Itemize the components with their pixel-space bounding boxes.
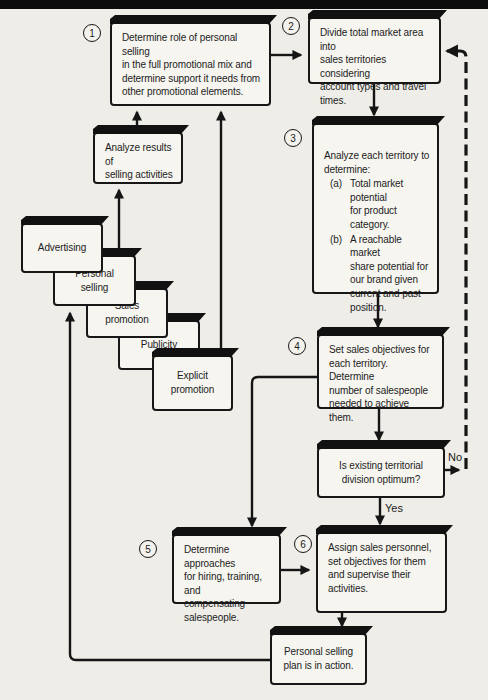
step-5-number-badge: 5 [139, 540, 157, 558]
step-5-number: 5 [145, 544, 151, 555]
arrow-step4-to-step5 [252, 377, 317, 526]
step-3-item-b: (b) A reachable market share potential f… [324, 233, 431, 315]
plan-in-action-text: Personal selling plan is in action. [284, 645, 354, 672]
cascade-advertising-label: Advertising [38, 241, 86, 255]
step-5-text: Determine approaches for hiring, trainin… [184, 543, 271, 625]
step-6-text: Assign sales personnel, set objectives f… [328, 541, 437, 595]
step-3-box: Analyze each territory to determine: (a)… [312, 123, 439, 294]
flowchart-page: 1 2 3 4 5 6 Determine role of personal s… [0, 0, 488, 700]
cascade-explicit-promotion-label: Explicit promotion [171, 369, 215, 396]
step-1-text: Determine role of personal selling in th… [122, 31, 261, 99]
step-2-box: Divide total market area into sales terr… [308, 17, 441, 84]
step-2-text: Divide total market area into sales terr… [320, 26, 431, 108]
decision-territorial-division-box: Is existing territorial division optimum… [317, 447, 445, 498]
analyze-results-text: Analyze results of selling activities [105, 141, 173, 182]
step-3-item-a-label: (a) [330, 177, 350, 231]
step-3-number: 3 [290, 133, 296, 144]
step-2-number-badge: 2 [282, 17, 300, 35]
step-6-box: Assign sales personnel, set objectives f… [316, 532, 447, 613]
step-3-item-b-text: A reachable market share potential for o… [350, 233, 431, 315]
step-6-number-badge: 6 [294, 535, 312, 553]
step-1-number-badge: 1 [83, 24, 101, 42]
dashed-no-loop-to-step2 [447, 51, 466, 469]
plan-in-action-box: Personal selling plan is in action. [270, 633, 367, 685]
step-1-box: Determine role of personal selling in th… [110, 22, 271, 106]
step-4-text: Set sales objectives for each territory.… [329, 343, 434, 425]
step-3-intro: Analyze each territory to determine: [324, 149, 431, 176]
decision-text: Is existing territorial division optimum… [339, 459, 423, 486]
decision-no-label: No [448, 451, 462, 463]
decision-yes-label: Yes [385, 502, 403, 514]
step-2-number: 2 [288, 21, 294, 32]
step-1-number: 1 [89, 28, 95, 39]
step-3-number-badge: 3 [284, 129, 302, 147]
step-3-item-b-label: (b) [330, 233, 350, 315]
step-4-number: 4 [294, 341, 300, 352]
cascade-advertising-box: Advertising [21, 223, 103, 273]
step-4-number-badge: 4 [288, 337, 306, 355]
step-6-number: 6 [300, 539, 306, 550]
analyze-results-box: Analyze results of selling activities [93, 132, 183, 184]
step-3-item-a: (a) Total market potential for product c… [324, 177, 431, 231]
cascade-explicit-promotion-box: Explicit promotion [152, 355, 233, 411]
step-5-box: Determine approaches for hiring, trainin… [172, 534, 281, 604]
step-3-item-a-text: Total market potential for product categ… [350, 177, 431, 231]
step-4-box: Set sales objectives for each territory.… [317, 334, 444, 409]
